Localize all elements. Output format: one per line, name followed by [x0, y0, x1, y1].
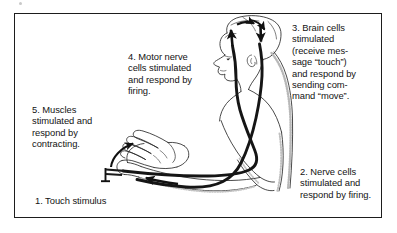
scan-artifact-speck [19, 2, 22, 5]
caption-step-2-nerve-cells: 2. Nerve cells stimulated and respond by… [300, 166, 384, 200]
caption-step-1-touch-stimulus: 1. Touch stimulus [35, 195, 145, 206]
caption-step-5-muscles: 5. Muscles stimulated and respond by con… [32, 104, 104, 150]
caption-step-3-brain-cells: 3. Brain cells stimulated (receive mes- … [292, 22, 384, 102]
figure-root: 3. Brain cells stimulated (receive mes- … [0, 0, 397, 233]
caption-step-4-motor-nerve-cells: 4. Motor nerve cells stimulated and resp… [128, 51, 208, 97]
